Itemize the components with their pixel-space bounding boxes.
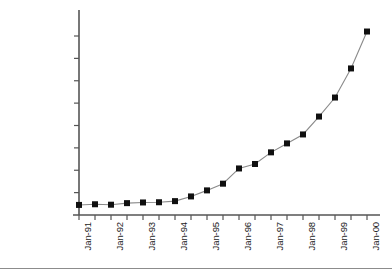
chart-figure: 010,000,00020,000,00030,000,00040,000,00… [0, 0, 392, 275]
footer-rule [0, 268, 392, 269]
x-axis-tick-labels: Jan-91Jan-92Jan-93Jan-94Jan-95Jan-96Jan-… [0, 0, 392, 275]
